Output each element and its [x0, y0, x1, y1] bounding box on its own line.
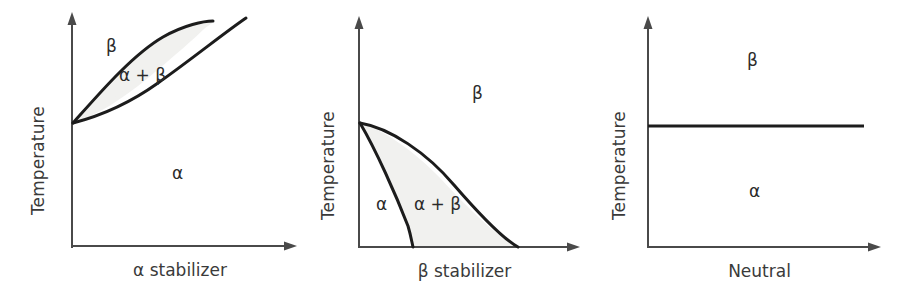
phase-diagram-figure: Temperature α stabilizer β α + β α Tempe… [0, 0, 905, 292]
y-axis-arrowhead [644, 16, 653, 29]
region-label-beta: β [747, 52, 758, 69]
region-label-beta: β [472, 85, 483, 102]
y-axis-arrowhead [355, 16, 364, 29]
x-axis-label: α stabilizer [72, 262, 288, 279]
panel-alpha-stabilizer: Temperature α stabilizer β α + β α [0, 0, 302, 292]
x-axis-label: β stabilizer [359, 263, 570, 280]
region-label-alpha: α [172, 165, 183, 182]
region-label-beta: β [106, 38, 117, 55]
y-axis-label: Temperature [30, 106, 47, 215]
panel-neutral: Temperature Neutral β α [603, 0, 905, 292]
y-axis-label: Temperature [320, 111, 337, 220]
panel-beta-stabilizer: Temperature β stabilizer β α + β α [302, 0, 604, 292]
panel-neutral-plot [603, 0, 905, 292]
y-axis-arrowhead [68, 12, 77, 25]
y-axis-label: Temperature [611, 111, 628, 220]
region-label-alpha: α [749, 183, 760, 200]
x-axis-arrowhead [868, 243, 881, 252]
region-label-alpha: α [376, 196, 387, 213]
x-axis-label: Neutral [648, 263, 871, 280]
x-axis-arrowhead [284, 242, 297, 251]
region-label-alpha-beta: α + β [414, 196, 461, 213]
x-axis-arrowhead [567, 243, 580, 252]
region-label-alpha-beta: α + β [119, 67, 166, 84]
panel-beta-stabilizer-plot [302, 0, 604, 292]
